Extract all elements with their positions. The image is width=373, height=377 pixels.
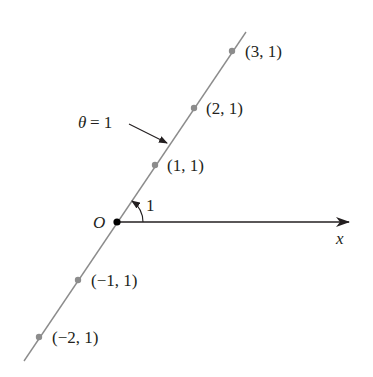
angle-arc (132, 201, 143, 222)
line-label-theta: θ (78, 113, 86, 132)
axis-label-x: x (335, 229, 344, 248)
point-label-3-1: (3, 1) (245, 42, 282, 61)
point-neg1-1 (75, 277, 81, 283)
origin-point (113, 218, 120, 225)
origin-label: O (93, 213, 105, 232)
polar-diagram: (3, 1) (2, 1) (1, 1) (−1, 1) (−2, 1) θ =… (0, 0, 373, 377)
point-label-neg2-1: (−2, 1) (52, 328, 98, 347)
point-neg2-1 (36, 334, 42, 340)
point-label-2-1: (2, 1) (206, 99, 243, 118)
point-3-1 (229, 48, 235, 54)
point-label-1-1: (1, 1) (167, 156, 204, 175)
line-label-equals: = 1 (90, 113, 112, 132)
theta-line (24, 32, 246, 361)
point-2-1 (191, 105, 197, 111)
point-label-neg1-1: (−1, 1) (91, 271, 137, 290)
angle-label: 1 (146, 196, 155, 215)
point-1-1 (152, 162, 158, 168)
label-pointer-arrow (129, 124, 167, 143)
